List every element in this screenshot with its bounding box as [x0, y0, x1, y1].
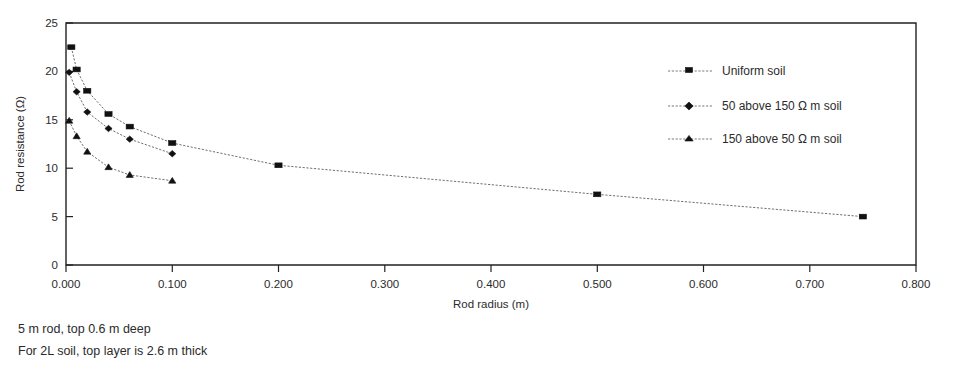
data-point	[126, 172, 133, 178]
y-axis-title: Rod resistance (Ω)	[14, 96, 26, 192]
legend-entry-uniform-soil[interactable]: Uniform soil	[668, 64, 785, 78]
figure-page: 0 5 10 15 20 25 Rod resistance (Ω) 0.000…	[0, 0, 953, 373]
x-axis-ticks	[66, 265, 916, 272]
x-tick-label-7: 0.700	[795, 278, 824, 290]
data-point	[859, 214, 866, 219]
data-point	[169, 141, 176, 146]
legend-label-0: Uniform soil	[722, 64, 785, 78]
y-axis-ticks	[66, 23, 73, 265]
legend-marker-square-icon	[686, 68, 693, 73]
legend-entry-50-above-150[interactable]: 50 above 150 Ω m soil	[668, 99, 842, 113]
data-point	[169, 177, 176, 183]
data-point	[84, 148, 91, 154]
data-point	[169, 150, 176, 156]
data-point	[126, 136, 133, 142]
legend-label-1: 50 above 150 Ω m soil	[722, 99, 842, 113]
x-tick-label-3: 0.300	[370, 278, 399, 290]
data-point	[105, 112, 112, 117]
data-point	[105, 164, 112, 170]
x-tick-label-1: 0.100	[158, 278, 187, 290]
data-point	[84, 88, 91, 93]
x-tick-label-0: 0.000	[52, 278, 81, 290]
data-point	[594, 192, 601, 197]
x-tick-label-4: 0.400	[477, 278, 506, 290]
legend: Uniform soil 50 above 150 Ω m soil 150 a…	[668, 64, 842, 146]
x-tick-label-6: 0.600	[689, 278, 718, 290]
x-tick-label-8: 0.800	[902, 278, 931, 290]
data-point	[275, 163, 282, 168]
series-1	[66, 69, 176, 157]
legend-entry-150-above-50[interactable]: 150 above 50 Ω m soil	[668, 132, 842, 146]
series-2	[66, 117, 176, 183]
x-axis-title: Rod radius (m)	[453, 298, 529, 310]
data-point	[68, 45, 75, 50]
data-point	[73, 133, 80, 139]
y-tick-label-10: 10	[45, 162, 58, 174]
note-line-1: 5 m rod, top 0.6 m deep	[18, 322, 151, 336]
data-point	[73, 67, 80, 72]
data-point	[105, 125, 112, 131]
data-point	[126, 124, 133, 129]
x-tick-label-5: 0.500	[583, 278, 612, 290]
rod-resistance-chart: 0 5 10 15 20 25 Rod resistance (Ω) 0.000…	[0, 0, 953, 373]
y-tick-label-15: 15	[45, 114, 58, 126]
y-tick-label-5: 5	[52, 211, 58, 223]
note-line-2: For 2L soil, top layer is 2.6 m thick	[18, 344, 208, 358]
legend-marker-triangle-icon	[685, 135, 693, 141]
series-line-2	[69, 121, 172, 181]
x-tick-label-2: 0.200	[264, 278, 293, 290]
y-tick-label-25: 25	[45, 17, 58, 29]
data-point	[73, 89, 80, 95]
legend-marker-diamond-icon	[685, 102, 693, 110]
y-tick-label-0: 0	[52, 259, 58, 271]
legend-label-2: 150 above 50 Ω m soil	[722, 132, 842, 146]
y-tick-label-20: 20	[45, 65, 58, 77]
